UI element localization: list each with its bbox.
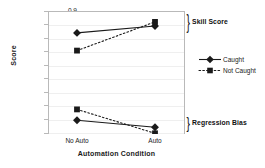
legend-label-caught: Caught <box>223 56 244 63</box>
legend-key-caught-icon <box>198 55 222 64</box>
legend-item-caught: Caught <box>198 54 264 65</box>
series-caught-regression-bias <box>73 116 159 131</box>
chart-figure: Score 0.9 0.8 0.7 0.6 0.5 0.4 0.3 0.2 0.… <box>0 0 265 168</box>
annotation-skill-score: Skill Score <box>192 18 228 25</box>
annotation-regression-bias: Regression Bias <box>192 119 247 126</box>
y-axis-title: Score <box>10 34 17 78</box>
figure-caption <box>3 162 203 168</box>
series-layer <box>48 11 185 134</box>
x-tick-label-no-auto: No Auto <box>47 137 107 144</box>
series-not-caught-regression-bias <box>74 107 158 135</box>
chart-legend: Caught Not Caught <box>198 54 264 76</box>
series-caught-skill-score <box>73 22 159 37</box>
x-axis-title: Automation Condition <box>48 150 185 157</box>
legend-key-not-caught-icon <box>198 66 222 75</box>
legend-item-not-caught: Not Caught <box>198 65 264 76</box>
legend-label-not-caught: Not Caught <box>223 67 256 74</box>
regression-bias-brace-icon: } <box>186 115 189 132</box>
x-tick-label-auto: Auto <box>125 137 185 144</box>
skill-score-brace-icon: } <box>186 13 189 33</box>
series-not-caught-skill-score <box>74 19 158 54</box>
